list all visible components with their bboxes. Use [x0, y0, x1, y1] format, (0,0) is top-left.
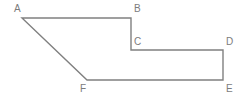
polygon-outline-path — [22, 18, 223, 80]
geometry-figure-canvas: A B C D E F — [0, 0, 247, 102]
vertex-label-e: E — [226, 84, 233, 94]
vertex-label-b: B — [134, 4, 141, 14]
vertex-label-d: D — [226, 37, 233, 47]
vertex-label-c: C — [134, 37, 141, 47]
vertex-label-f: F — [80, 84, 86, 94]
vertex-label-a: A — [14, 4, 21, 14]
polygon-drawing — [0, 0, 247, 102]
